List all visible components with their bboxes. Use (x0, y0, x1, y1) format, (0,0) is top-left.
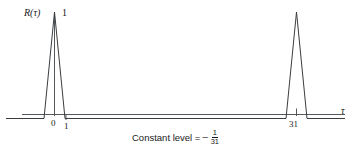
constant-level-annotation: Constant level = – 1 31 (132, 129, 220, 146)
autocorrelation-figure: R(τ) 1 τ 0 1 31 Constant level = – 1 31 (0, 0, 356, 152)
y-axis-label: R(τ) (24, 8, 40, 18)
peak-amplitude-label: 1 (62, 8, 67, 18)
fraction-one-over-thirtyone: 1 31 (210, 129, 220, 146)
x-axis-label: τ (341, 106, 345, 116)
tick-label-1: 1 (64, 122, 69, 131)
constant-level-text: Constant level = (132, 133, 200, 143)
tick-label-0: 0 (51, 119, 56, 128)
tick-label-31: 31 (289, 120, 298, 129)
autocorrelation-curve (6, 12, 345, 119)
minus-sign: – (202, 132, 207, 142)
fraction-denominator: 31 (210, 138, 220, 146)
